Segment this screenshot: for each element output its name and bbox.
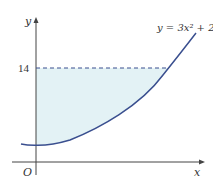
shaded-region	[36, 68, 168, 145]
chart: y x O 14 y = 3x² + 2	[0, 0, 213, 184]
origin-label: O	[23, 166, 32, 179]
tick-label-14: 14	[18, 62, 30, 74]
x-axis-arrow-icon	[199, 160, 205, 165]
x-axis-label: x	[194, 166, 201, 179]
y-axis-label: y	[24, 15, 32, 28]
y-axis-arrow-icon	[34, 17, 39, 23]
equation-label: y = 3x² + 2	[156, 22, 213, 33]
